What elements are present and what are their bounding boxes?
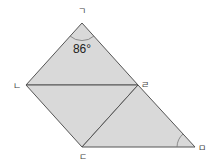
geometry-diagram: 86° ㄱ ㄴ ㄹ ㄷ ㅁ	[0, 0, 219, 168]
vertex-label-rieul: ㄹ	[141, 80, 149, 90]
vertex-label-mieum: ㅁ	[198, 143, 206, 153]
angle-label: 86°	[73, 42, 91, 56]
vertex-label-nieun: ㄴ	[13, 81, 21, 91]
vertex-label-giyeok: ㄱ	[78, 6, 86, 16]
vertex-label-digeut: ㄷ	[79, 152, 87, 162]
